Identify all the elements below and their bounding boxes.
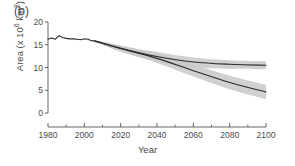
uncertainty-bands: [95, 40, 266, 99]
x-tick-label: 2000: [75, 130, 94, 140]
y-tick-label: 0: [38, 108, 43, 118]
axes: [45, 22, 266, 127]
figure-panel: (b) Area (x 106 km2) Year 05101520198020…: [0, 0, 295, 166]
chart-svg: 051015201980200020202040206020802100: [0, 0, 295, 166]
y-tick-label: 15: [34, 40, 44, 50]
x-tick-label: 2100: [257, 130, 276, 140]
y-tick-label: 5: [38, 85, 43, 95]
x-tick-label: 2060: [184, 130, 203, 140]
series-line-historical: [48, 36, 95, 41]
uncertainty-band-projection-high-forcing: [95, 40, 266, 99]
x-tick-label: 2020: [111, 130, 130, 140]
x-tick-label: 2040: [148, 130, 167, 140]
x-tick-label: 2080: [220, 130, 239, 140]
x-tick-label: 1980: [39, 130, 58, 140]
y-tick-label: 10: [34, 63, 44, 73]
y-tick-label: 20: [34, 17, 44, 27]
